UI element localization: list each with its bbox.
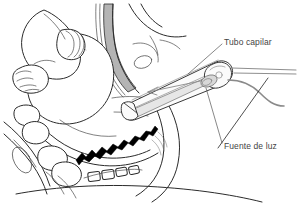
illustration-canvas bbox=[0, 0, 299, 204]
label-fuente-de-luz: Fuente de luz bbox=[224, 142, 277, 151]
leader-lines bbox=[188, 44, 268, 148]
capillary-tube bbox=[121, 60, 232, 120]
maternal-soft-tissue bbox=[129, 4, 186, 70]
leader-fuente-de-luz-secondary bbox=[218, 78, 268, 148]
label-tubo-capilar: Tubo capilar bbox=[224, 38, 272, 47]
medical-illustration-figure: Tubo capilar Fuente de luz bbox=[0, 0, 299, 204]
leader-fuente-de-luz bbox=[206, 88, 222, 143]
